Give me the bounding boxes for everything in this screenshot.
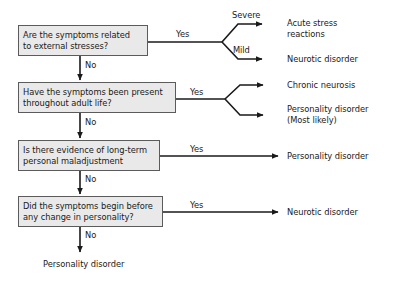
edge-q2-upper	[225, 85, 263, 99]
edge-label-mild: Mild	[233, 45, 250, 55]
outcome-label-personality-disorder-q3: Personality disorder	[287, 151, 368, 162]
outcome-6-line-1: Neurotic disorder	[287, 207, 358, 218]
edge-label-no-3: No	[85, 174, 96, 184]
outcome-5-line-1: Personality disorder	[287, 151, 368, 162]
outcome-label-personality-disorder-most-likely: Personality disorder (Most likely)	[287, 104, 368, 126]
question-1-line-2: to external stresses?	[23, 41, 147, 52]
outcome-2-line-1: Neurotic disorder	[287, 54, 358, 65]
edge-label-yes-2: Yes	[190, 87, 203, 97]
question-1-line-1: Are the symptoms related	[23, 30, 147, 41]
flowchart-diagram: Are the symptoms related to external str…	[0, 0, 393, 285]
outcome-7-line-1: Personality disorder	[43, 259, 124, 270]
edge-q1-severe	[222, 24, 262, 42]
edge-label-yes-3: Yes	[190, 144, 203, 154]
question-box-4[interactable]: Did the symptoms begin before any change…	[18, 196, 163, 227]
outcome-1-line-2: reactions	[287, 29, 337, 40]
edge-label-no-2: No	[85, 117, 96, 127]
question-3-line-1: Is there evidence of long-term	[23, 145, 159, 156]
question-box-2[interactable]: Have the symptoms been present throughou…	[18, 82, 176, 113]
outcome-label-chronic-neurosis: Chronic neurosis	[287, 80, 355, 91]
edge-label-severe: Severe	[232, 10, 260, 20]
edge-label-no-1: No	[85, 60, 96, 70]
outcome-3-line-1: Chronic neurosis	[287, 80, 355, 91]
outcome-4-line-1: Personality disorder	[287, 104, 368, 115]
edge-label-no-4: No	[85, 230, 96, 240]
edge-label-yes-1: Yes	[176, 29, 189, 39]
question-2-line-2: throughout adult life?	[23, 98, 175, 109]
question-box-3[interactable]: Is there evidence of long-term personal …	[18, 140, 160, 171]
outcome-1-line-1: Acute stress	[287, 18, 337, 29]
edge-q2-lower	[225, 99, 263, 115]
question-box-1[interactable]: Are the symptoms related to external str…	[18, 25, 148, 56]
question-2-line-1: Have the symptoms been present	[23, 87, 175, 98]
outcome-label-neurotic-disorder-mild: Neurotic disorder	[287, 54, 358, 65]
question-4-line-2: any change in personality?	[23, 212, 162, 223]
outcome-label-acute-stress-reactions: Acute stress reactions	[287, 18, 337, 40]
question-3-line-2: personal maladjustment	[23, 156, 159, 167]
outcome-4-line-2: (Most likely)	[287, 115, 368, 126]
outcome-label-personality-disorder-final: Personality disorder	[43, 259, 124, 270]
outcome-label-neurotic-disorder-q4: Neurotic disorder	[287, 207, 358, 218]
edge-label-yes-4: Yes	[190, 200, 203, 210]
question-4-line-1: Did the symptoms begin before	[23, 201, 162, 212]
